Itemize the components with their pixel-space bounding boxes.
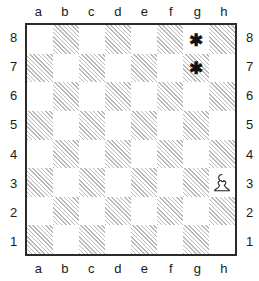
file-label-bottom-f: f [158,258,185,279]
board-square-f6[interactable] [157,82,183,111]
rank-labels-left: 8 7 6 5 4 3 2 1 [2,23,25,256]
rank-label-right-8: 8 [238,23,259,52]
board-square-g6[interactable] [183,82,209,111]
board-square-g2[interactable] [183,197,209,226]
rank-label-left-2: 2 [2,198,25,227]
file-label-bottom-d: d [105,258,132,279]
board-square-d2[interactable] [105,197,131,226]
board-square-b8[interactable] [53,25,79,54]
board-square-a2[interactable] [27,197,53,226]
asterisk-marker-icon: ✱ [189,60,203,77]
board-square-e8[interactable] [131,25,157,54]
board-square-d6[interactable] [105,82,131,111]
board-square-f7[interactable] [157,54,183,83]
board-square-f2[interactable] [157,197,183,226]
rank-label-right-1: 1 [238,227,259,256]
board-square-e3[interactable] [131,168,157,197]
rank-label-right-7: 7 [238,52,259,81]
rank-label-right-4: 4 [238,140,259,169]
board-square-g8[interactable]: ✱ [183,25,209,54]
board-square-b1[interactable] [53,225,79,254]
file-label-bottom-h: h [211,258,238,279]
board-square-g7[interactable]: ✱ [183,54,209,83]
chess-diagram: a b c d e f g h 8 7 6 5 4 3 2 1 ✱✱ 8 7 6… [0,0,259,281]
board-square-g3[interactable] [183,168,209,197]
board-square-d1[interactable] [105,225,131,254]
rank-label-left-7: 7 [2,52,25,81]
board-square-e4[interactable] [131,140,157,169]
file-label-bottom-a: a [25,258,52,279]
board-square-g4[interactable] [183,140,209,169]
chess-board: ✱✱ [25,23,237,256]
board-square-c5[interactable] [79,111,105,140]
board-square-e6[interactable] [131,82,157,111]
board-square-h5[interactable] [209,111,235,140]
file-label-top-h: h [211,1,238,22]
board-square-c1[interactable] [79,225,105,254]
file-labels-bottom: a b c d e f g h [25,258,237,279]
board-square-e5[interactable] [131,111,157,140]
rank-label-left-3: 3 [2,169,25,198]
board-square-c2[interactable] [79,197,105,226]
board-square-d4[interactable] [105,140,131,169]
board-square-d5[interactable] [105,111,131,140]
board-square-a7[interactable] [27,54,53,83]
board-square-e1[interactable] [131,225,157,254]
rank-label-right-2: 2 [238,198,259,227]
file-label-bottom-g: g [184,258,211,279]
board-square-b6[interactable] [53,82,79,111]
board-square-a6[interactable] [27,82,53,111]
board-square-h8[interactable] [209,25,235,54]
board-square-c4[interactable] [79,140,105,169]
rank-label-right-3: 3 [238,169,259,198]
board-square-b7[interactable] [53,54,79,83]
board-square-f4[interactable] [157,140,183,169]
board-square-h3[interactable] [209,168,235,197]
file-label-top-b: b [52,1,79,22]
file-label-top-g: g [184,1,211,22]
board-square-a4[interactable] [27,140,53,169]
board-square-a5[interactable] [27,111,53,140]
board-square-d7[interactable] [105,54,131,83]
board-square-b5[interactable] [53,111,79,140]
board-square-g5[interactable] [183,111,209,140]
board-square-f1[interactable] [157,225,183,254]
file-labels-top: a b c d e f g h [25,1,237,22]
board-square-e2[interactable] [131,197,157,226]
file-label-top-f: f [158,1,185,22]
board-square-e7[interactable] [131,54,157,83]
board-square-b3[interactable] [53,168,79,197]
board-square-c8[interactable] [79,25,105,54]
file-label-top-a: a [25,1,52,22]
board-square-c7[interactable] [79,54,105,83]
board-square-h4[interactable] [209,140,235,169]
file-label-top-d: d [105,1,132,22]
board-square-a8[interactable] [27,25,53,54]
board-square-h1[interactable] [209,225,235,254]
file-label-top-c: c [78,1,105,22]
board-square-d8[interactable] [105,25,131,54]
board-square-b4[interactable] [53,140,79,169]
board-square-f8[interactable] [157,25,183,54]
board-square-a1[interactable] [27,225,53,254]
rank-label-right-6: 6 [238,81,259,110]
board-square-f3[interactable] [157,168,183,197]
board-square-h6[interactable] [209,82,235,111]
board-square-a3[interactable] [27,168,53,197]
board-square-c6[interactable] [79,82,105,111]
asterisk-marker-icon: ✱ [189,32,203,49]
board-square-f5[interactable] [157,111,183,140]
rank-label-left-4: 4 [2,140,25,169]
board-square-h2[interactable] [209,197,235,226]
board-square-b2[interactable] [53,197,79,226]
board-square-g1[interactable] [183,225,209,254]
board-square-c3[interactable] [79,168,105,197]
rank-label-left-8: 8 [2,23,25,52]
file-label-top-e: e [131,1,158,22]
rank-label-right-5: 5 [238,110,259,139]
white-pawn-icon[interactable] [209,168,235,197]
board-square-h7[interactable] [209,54,235,83]
file-label-bottom-e: e [131,258,158,279]
rank-labels-right: 8 7 6 5 4 3 2 1 [238,23,259,256]
board-square-d3[interactable] [105,168,131,197]
